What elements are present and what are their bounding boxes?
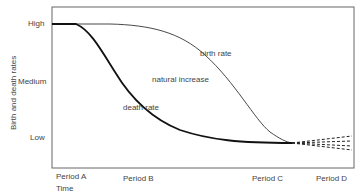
y-tick-low: Low — [30, 134, 45, 142]
y-tick-high: High — [28, 20, 44, 28]
x-tick-period-a: Period A — [56, 173, 86, 181]
y-tick-medium: Medium — [18, 78, 46, 86]
x-tick-period-c: Period C — [252, 175, 283, 183]
death-rate-label: death rate — [123, 104, 159, 112]
x-tick-period-b: Period B — [123, 175, 154, 183]
x-axis-title: Time — [56, 185, 73, 193]
projection-dashes — [292, 136, 352, 150]
y-axis-title: Birth and death rates — [10, 56, 18, 130]
birth-rate-label: birth rate — [200, 50, 232, 58]
natural-increase-label: natural increase — [152, 76, 209, 84]
chart-canvas — [0, 0, 357, 195]
x-tick-period-d: Period D — [316, 175, 347, 183]
